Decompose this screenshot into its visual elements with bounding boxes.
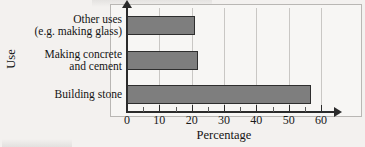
x-tick [256,105,257,112]
x-minor-tick [143,107,144,112]
bar [127,85,311,104]
x-tick-label: 60 [306,114,336,127]
page-bleed-bottom-artifact [2,139,72,147]
x-minor-tick [240,107,241,112]
x-tick-label: 30 [209,114,239,127]
x-minor-tick [273,107,274,112]
y-axis-category-labels: Building stoneMaking concrete and cement… [0,4,122,117]
x-tick [321,105,322,112]
x-minor-tick [305,107,306,112]
x-tick-label: 40 [241,114,271,127]
x-tick [192,105,193,112]
x-tick [159,105,160,112]
x-axis-title: Percentage [127,128,321,142]
x-tick-label: 20 [177,114,207,127]
y-axis-arrow [122,0,132,8]
x-tick [224,105,225,112]
bar [127,16,195,35]
category-label: Other uses (e.g. making glass) [34,13,122,38]
chart-figure: 0102030405060 Building stoneMaking concr… [0,0,365,147]
category-label: Building stone [55,88,122,101]
x-tick-label: 10 [144,114,174,127]
category-label: Making concrete and cement [44,48,122,73]
x-minor-tick [176,107,177,112]
gridline [321,8,322,112]
x-tick [289,105,290,112]
x-minor-tick [208,107,209,112]
y-axis-title: Use [4,39,18,79]
bar [127,51,198,70]
x-tick-label: 50 [274,114,304,127]
x-tick [127,105,128,112]
